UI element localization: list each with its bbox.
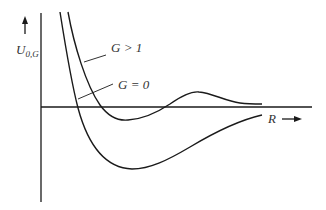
- curve-g-equals-0: [60, 12, 262, 169]
- right-arrow-icon: [282, 116, 302, 122]
- leader-line-g-greater-than-1: [84, 55, 106, 62]
- x-axis-label: R: [267, 111, 276, 126]
- potential-energy-diagram: U0,G G > 1 G = 0 R: [0, 0, 326, 210]
- curve-g-greater-than-1: [68, 12, 262, 120]
- up-arrow-icon: [22, 16, 28, 34]
- y-axis-label: U0,G: [16, 42, 39, 59]
- y-axis-label-subscript: 0,G: [25, 49, 39, 59]
- label-g-equals-0: G = 0: [118, 77, 150, 92]
- label-g-greater-than-1: G > 1: [111, 40, 142, 55]
